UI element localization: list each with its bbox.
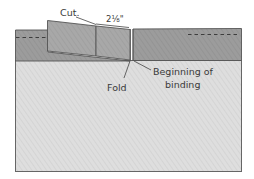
binding-right-band <box>133 29 242 61</box>
quilt-body <box>16 61 242 172</box>
flap-measured-piece <box>96 26 130 60</box>
measurement-label: 2⅛" <box>106 14 124 24</box>
beginning-label-line2: binding <box>165 79 200 90</box>
cut-label: Cut. <box>60 7 79 18</box>
fold-label: Fold <box>107 82 127 93</box>
cut-leader <box>76 17 96 25</box>
beginning-label-line1: Beginning of <box>153 66 214 77</box>
flap-cut-piece <box>48 21 97 57</box>
binding-diagram: Cut. 2⅛" Fold Beginning of binding <box>0 0 254 179</box>
